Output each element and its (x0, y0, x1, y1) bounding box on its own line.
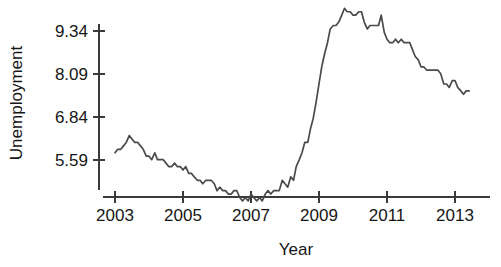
x-axis-title: Year (279, 240, 314, 259)
y-tick-label: 9.34 (55, 22, 88, 41)
x-tick-label: 2003 (96, 206, 134, 225)
y-axis: 5.596.848.099.34 (55, 22, 105, 190)
y-tick-label-group: 5.596.848.099.34 (55, 22, 88, 170)
x-tick-label: 2005 (164, 206, 202, 225)
x-tick-label-group: 200320052007200920112013 (96, 206, 474, 225)
y-tick-label: 8.09 (55, 65, 88, 84)
x-tick-label: 2007 (232, 206, 270, 225)
y-axis-title: Unemployment (7, 46, 26, 161)
unemployment-line-chart: 5.596.848.099.34 20032005200720092011201… (0, 0, 501, 267)
x-tick-label: 2009 (300, 206, 338, 225)
chart-canvas: 5.596.848.099.34 20032005200720092011201… (0, 0, 501, 267)
series-line-unemployment (115, 8, 469, 201)
x-axis: 200320052007200920112013 (96, 191, 490, 225)
x-tick-label: 2011 (369, 206, 406, 225)
data-series-group (115, 8, 469, 201)
y-tick-label: 6.84 (55, 108, 88, 127)
x-tick-label: 2013 (436, 206, 474, 225)
y-tick-label: 5.59 (55, 151, 88, 170)
